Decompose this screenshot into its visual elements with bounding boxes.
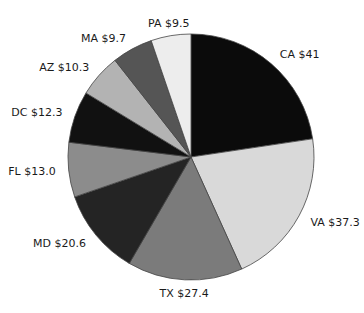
slice-label-pa: PA $9.5 <box>148 17 189 30</box>
slice-label-ma: MA $9.7 <box>81 32 126 45</box>
slice-label-az: AZ $10.3 <box>39 61 89 74</box>
slice-label-dc: DC $12.3 <box>11 106 62 119</box>
pie-slices <box>68 34 314 280</box>
slice-label-fl: FL $13.0 <box>8 165 55 178</box>
pie-chart: CA $41VA $37.3TX $27.4MD $20.6FL $13.0DC… <box>0 0 364 313</box>
slice-label-ca: CA $41 <box>280 48 320 61</box>
slice-label-tx: TX $27.4 <box>159 287 209 300</box>
slice-label-md: MD $20.6 <box>33 237 86 250</box>
slice-label-va: VA $37.3 <box>310 216 359 229</box>
